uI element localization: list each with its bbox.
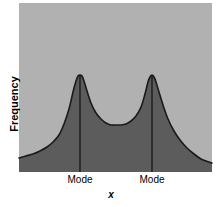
y-axis-label: Frequency: [6, 54, 22, 154]
x-tick-label-mode-right: Mode: [122, 174, 182, 185]
x-axis-label: x: [0, 189, 222, 200]
x-tick-label-mode-left: Mode: [50, 174, 110, 185]
bimodal-distribution-figure: Frequency Mode Mode x: [0, 0, 222, 207]
distribution-plot: [0, 0, 222, 207]
